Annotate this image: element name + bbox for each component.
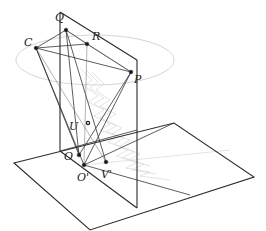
point-t bbox=[64, 28, 68, 32]
shaded-region bbox=[80, 68, 230, 180]
label-r: R bbox=[91, 30, 100, 43]
point-u bbox=[86, 121, 89, 124]
label-p: P bbox=[133, 73, 142, 86]
point-o-prime bbox=[82, 163, 86, 167]
point-p bbox=[129, 70, 133, 74]
point-r bbox=[85, 42, 89, 46]
label-o-prime: O' bbox=[77, 171, 89, 184]
geometry-diagram: Q C R P U O O' V' bbox=[0, 0, 266, 231]
ground-plane bbox=[14, 123, 254, 230]
label-u: U bbox=[69, 120, 79, 133]
label-c: C bbox=[24, 36, 33, 49]
point-o bbox=[77, 153, 81, 157]
point-c bbox=[34, 46, 38, 50]
label-q: Q bbox=[55, 11, 64, 24]
point-v-prime bbox=[104, 160, 108, 164]
label-v-prime: V' bbox=[101, 168, 112, 181]
label-o: O bbox=[64, 150, 73, 163]
